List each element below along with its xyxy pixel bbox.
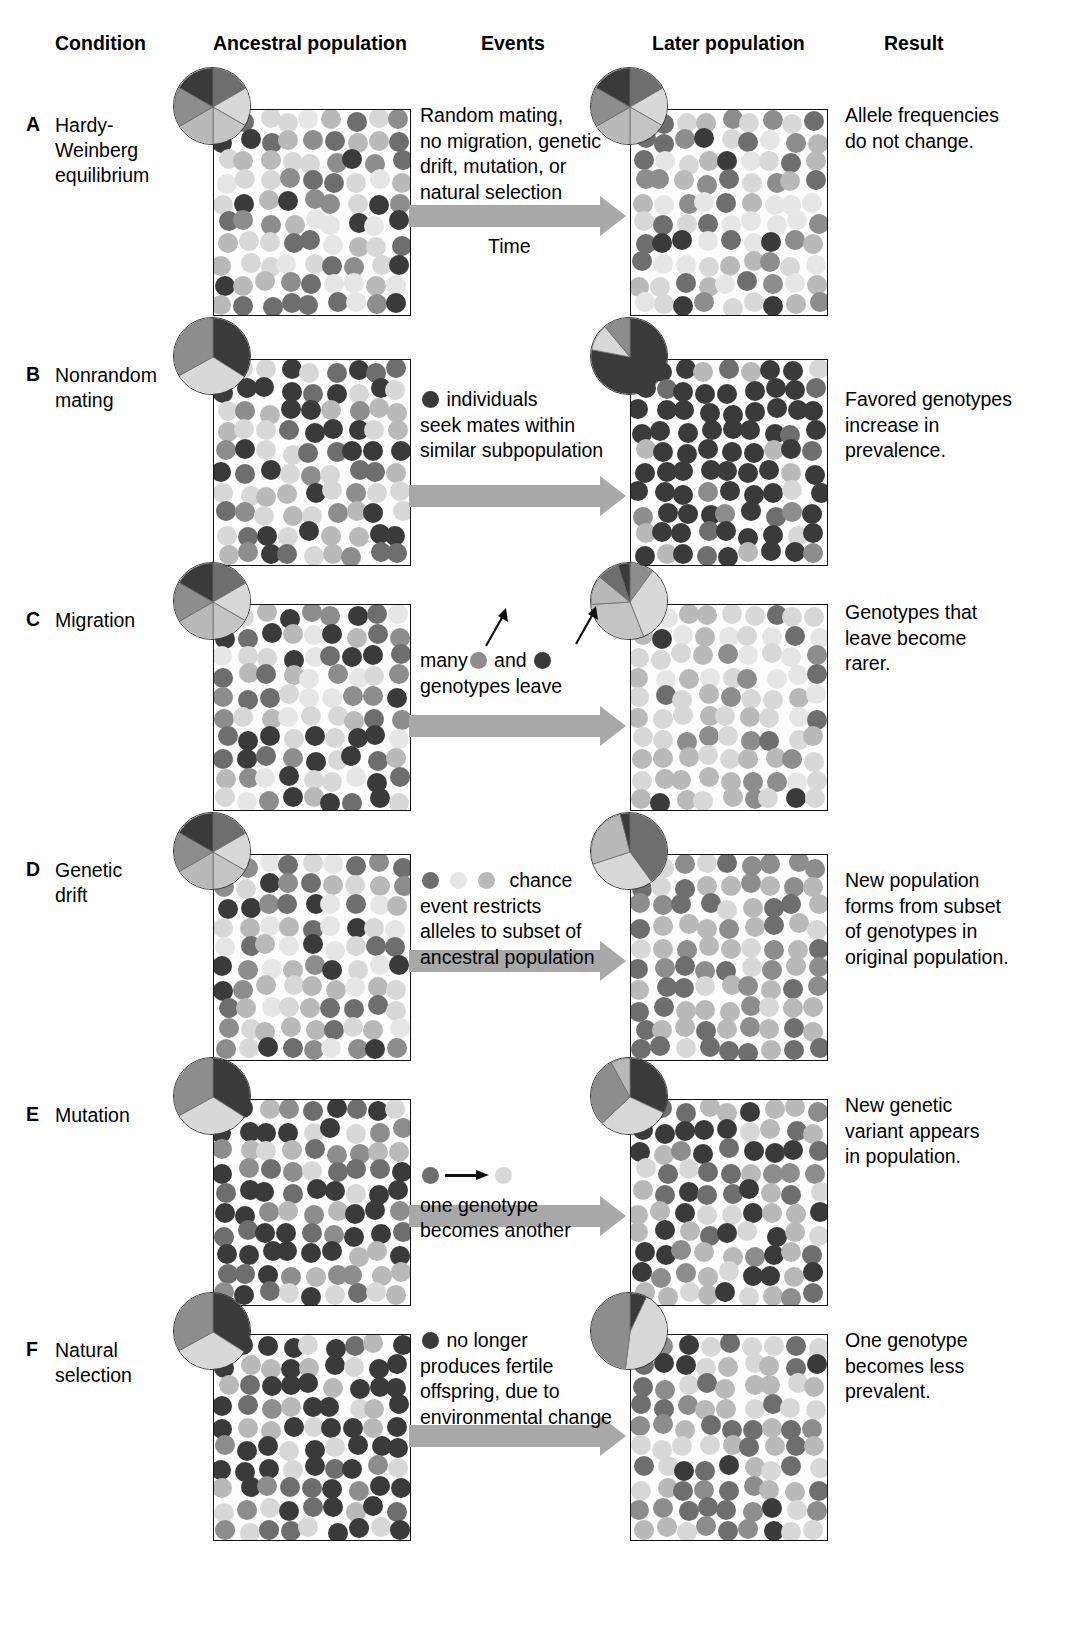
population-dot bbox=[389, 210, 409, 230]
events-line: ancestral population bbox=[420, 945, 660, 971]
population-dot bbox=[279, 936, 299, 956]
population-dot bbox=[720, 256, 740, 276]
genotype-dot-icon bbox=[422, 1332, 439, 1349]
population-dot bbox=[807, 920, 827, 940]
population-dot bbox=[807, 664, 827, 684]
chance-allele-dot-icon bbox=[478, 872, 495, 889]
population-dot bbox=[673, 296, 693, 316]
population-dot bbox=[388, 1180, 408, 1200]
population-dot bbox=[784, 1040, 804, 1060]
population-dot bbox=[284, 1417, 304, 1437]
ancestral-population-box bbox=[213, 109, 411, 316]
population-dot bbox=[341, 746, 361, 766]
population-dot bbox=[345, 1336, 365, 1356]
population-dot bbox=[781, 1288, 801, 1306]
population-dot bbox=[387, 1038, 407, 1058]
population-dot bbox=[718, 726, 738, 746]
population-dot bbox=[631, 1481, 651, 1501]
population-dot bbox=[763, 296, 783, 316]
population-dot bbox=[389, 132, 409, 152]
population-dot bbox=[679, 669, 699, 689]
population-dot bbox=[804, 111, 824, 131]
population-dot bbox=[386, 359, 406, 378]
population-dot bbox=[679, 1182, 699, 1202]
population-dot bbox=[342, 149, 362, 169]
result-line: New genetic bbox=[845, 1093, 1084, 1119]
population-dot bbox=[807, 1354, 827, 1374]
population-dot bbox=[763, 274, 783, 294]
population-dot bbox=[238, 960, 258, 980]
population-dot bbox=[277, 544, 297, 564]
population-dot bbox=[740, 1017, 760, 1037]
population-dot bbox=[344, 273, 364, 293]
population-dot bbox=[761, 1040, 781, 1060]
population-dot bbox=[367, 604, 387, 624]
column-header-condition: Condition bbox=[55, 32, 146, 55]
population-dot bbox=[387, 688, 407, 708]
population-dot bbox=[345, 1204, 365, 1224]
population-dot bbox=[674, 400, 694, 420]
population-dot bbox=[743, 1203, 763, 1223]
population-dot bbox=[698, 745, 718, 765]
population-dot bbox=[699, 151, 719, 171]
population-dot bbox=[260, 1099, 280, 1119]
population-dot bbox=[676, 1263, 696, 1283]
population-dot bbox=[279, 997, 299, 1017]
population-dot bbox=[369, 398, 389, 418]
population-dot bbox=[738, 132, 758, 152]
population-dot bbox=[390, 481, 410, 501]
population-dot bbox=[719, 1481, 739, 1501]
population-dot bbox=[325, 1285, 345, 1305]
population-dot bbox=[741, 689, 761, 709]
population-dot bbox=[743, 898, 763, 918]
population-dot bbox=[387, 896, 407, 916]
population-dot bbox=[803, 543, 823, 563]
population-dot bbox=[390, 1018, 410, 1038]
population-dot bbox=[320, 916, 340, 936]
population-dot bbox=[657, 1517, 677, 1537]
population-dot bbox=[783, 979, 803, 999]
population-dot bbox=[298, 1373, 318, 1393]
population-dot bbox=[694, 292, 714, 312]
population-dot bbox=[321, 1038, 341, 1058]
population-dot bbox=[364, 216, 384, 236]
population-dot bbox=[806, 420, 826, 440]
result-line: rarer. bbox=[845, 651, 1084, 677]
population-dot bbox=[767, 669, 787, 689]
population-dot bbox=[632, 749, 652, 769]
population-dot bbox=[363, 686, 383, 706]
population-dot bbox=[803, 997, 823, 1017]
ancestral-allele-frequency-pie bbox=[173, 67, 251, 145]
population-dot bbox=[759, 1019, 779, 1039]
population-dot bbox=[371, 1517, 391, 1537]
population-dot bbox=[744, 443, 764, 463]
population-dot bbox=[323, 235, 343, 255]
population-dot bbox=[781, 1456, 801, 1476]
population-dot bbox=[369, 1359, 389, 1379]
population-dot bbox=[369, 109, 389, 128]
population-dot bbox=[699, 767, 719, 787]
population-dot bbox=[671, 770, 691, 790]
population-dot bbox=[785, 273, 805, 293]
population-dot bbox=[781, 439, 801, 459]
population-dot bbox=[699, 684, 719, 704]
population-dot bbox=[325, 1437, 345, 1457]
population-dot bbox=[634, 1456, 654, 1476]
population-dot bbox=[786, 788, 806, 808]
population-dot bbox=[260, 1281, 280, 1301]
population-dot bbox=[676, 1103, 696, 1123]
population-dot bbox=[299, 688, 319, 708]
population-dot bbox=[810, 1202, 828, 1222]
population-dot bbox=[278, 855, 298, 875]
events-line: one genotype bbox=[420, 1193, 660, 1219]
population-dot bbox=[364, 918, 384, 938]
result-line: One genotype bbox=[845, 1328, 1084, 1354]
population-dot bbox=[258, 1436, 278, 1456]
population-dot bbox=[278, 1201, 298, 1221]
population-dot bbox=[697, 605, 717, 625]
population-dot bbox=[803, 1262, 823, 1282]
population-dot bbox=[738, 1043, 758, 1061]
population-dot bbox=[386, 1285, 406, 1305]
mutation-arrow-icon bbox=[445, 1170, 489, 1180]
population-dot bbox=[762, 1418, 782, 1438]
